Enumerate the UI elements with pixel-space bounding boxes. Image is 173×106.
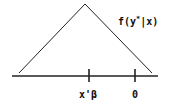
tick-label-zero: 0 xyxy=(132,89,138,100)
density-diagram: f(y*|x) x'β 0 xyxy=(0,0,173,106)
tick-label-xbeta: x'β xyxy=(79,89,97,100)
density-label: f(y*|x) xyxy=(118,15,158,28)
triangular-density-curve xyxy=(19,4,152,73)
